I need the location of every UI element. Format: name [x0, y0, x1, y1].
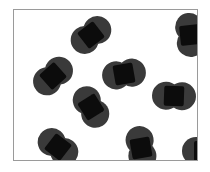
particle-layer [14, 10, 197, 160]
particle-diagram [0, 0, 210, 172]
container-frame [13, 9, 198, 161]
bond-overlap [179, 24, 197, 46]
bond-overlap [164, 86, 185, 107]
bond-overlap [194, 141, 197, 160]
bond-overlap [129, 136, 152, 159]
bond-overlap [112, 62, 135, 85]
